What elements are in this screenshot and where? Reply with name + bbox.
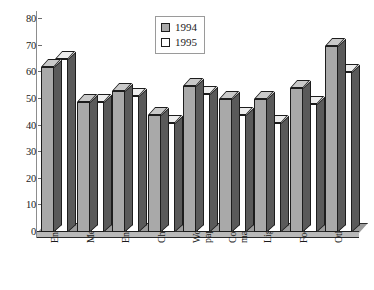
legend-label-1994: 1994: [175, 22, 197, 33]
y-axis-tick-0: 0: [0, 226, 42, 238]
y-axis-tick-40: 40: [0, 120, 42, 132]
bar-front-face: [219, 99, 232, 232]
bar-front-face: [41, 67, 54, 232]
bar-side-face: [161, 108, 169, 232]
bar-side-face: [338, 38, 346, 232]
bar-side-face: [196, 78, 204, 232]
bar-side-face: [125, 84, 133, 232]
bar-side-face: [90, 94, 98, 232]
bar-side-face: [303, 81, 311, 232]
legend-item-1994: 1994: [161, 20, 197, 35]
bar-front-face: [148, 115, 161, 232]
y-axis-tick-80: 80: [0, 13, 42, 25]
bar-1994-engin: [112, 91, 125, 232]
bar-side-face: [54, 60, 62, 232]
bar-front-face: [325, 46, 338, 232]
y-axis-tick-60: 60: [0, 66, 42, 78]
bar-side-face: [246, 108, 254, 232]
bar-side-face: [232, 92, 240, 232]
y-axis-tick-label: 30: [26, 146, 36, 158]
bar-1994-woodpaper: [183, 86, 196, 232]
bar-side-face: [139, 89, 147, 232]
y-axis-tick-10: 10: [0, 199, 42, 211]
bar-side-face: [175, 116, 183, 232]
legend-label-1995: 1995: [175, 37, 197, 48]
y-axis-tick-label: 50: [26, 93, 36, 105]
bar-side-face: [267, 92, 275, 232]
legend-swatch-icon-1995: [161, 38, 170, 47]
y-axis-tick-label: 80: [26, 13, 36, 25]
y-axis-tick-label: 70: [26, 40, 36, 52]
y-axis-tick-label: 10: [26, 199, 36, 211]
y-axis-tick-label: 40: [26, 120, 36, 132]
legend-swatch-icon-1994: [161, 23, 170, 32]
bar-front-face: [254, 99, 267, 232]
bar-front-face: [77, 102, 90, 232]
bar-chart: 01020304050607080 EnergyMetalsEngin.Chem…: [0, 0, 374, 290]
bar-1994-metals: [77, 102, 90, 232]
bar-side-face: [104, 94, 112, 232]
bar-front-face: [183, 86, 196, 232]
y-axis-tick-30: 30: [0, 146, 42, 158]
bar-1994-other: [325, 46, 338, 232]
bar-front-face: [112, 91, 125, 232]
legend-item-1995: 1995: [161, 35, 197, 50]
bar-1994-light: [254, 99, 267, 232]
y-axis-tick-20: 20: [0, 173, 42, 185]
chart-legend: 1994 1995: [155, 16, 205, 54]
y-axis-tick-label: 60: [26, 66, 36, 78]
bar-1994-constrmaterials: [219, 99, 232, 232]
bar-1994-food: [290, 88, 303, 232]
bar-side-face: [281, 116, 289, 232]
y-axis-tick-50: 50: [0, 93, 42, 105]
bar-front-face: [290, 88, 303, 232]
y-axis-tick-70: 70: [0, 40, 42, 52]
y-axis-tick-label: 20: [26, 173, 36, 185]
bar-side-face: [317, 97, 325, 232]
bar-side-face: [68, 52, 76, 232]
y-axis-tick-label: 0: [31, 226, 36, 238]
bar-1994-chem: [148, 115, 161, 232]
bar-1994-energy: [41, 67, 54, 232]
bar-side-face: [210, 86, 218, 232]
bar-side-face: [352, 65, 360, 232]
